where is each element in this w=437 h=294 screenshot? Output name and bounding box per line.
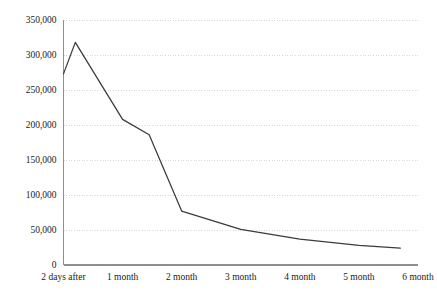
y-tick-label-3: 150,000 [26, 155, 57, 165]
gridlines-group [64, 20, 419, 230]
y-tick-label-1: 50,000 [30, 225, 56, 235]
x-axis-tick-labels: 2 days after1 month2 month3 month4 month… [41, 272, 434, 282]
x-tick-label-0: 2 days after [41, 272, 86, 282]
x-tick-label-5: 5 month [343, 272, 375, 282]
y-tick-label-2: 100,000 [26, 190, 57, 200]
x-tick-label-6: 6 month [402, 272, 434, 282]
y-axis-tick-labels: 050,000100,000150,000200,000250,000300,0… [26, 15, 57, 270]
chart-canvas: 050,000100,000150,000200,000250,000300,0… [0, 0, 437, 294]
y-tick-label-7: 350,000 [26, 15, 57, 25]
y-tick-label-6: 300,000 [26, 50, 57, 60]
x-tick-label-2: 2 month [166, 272, 198, 282]
x-tick-label-1: 1 month [107, 272, 139, 282]
x-tick-label-4: 4 month [284, 272, 316, 282]
line-chart: 050,000100,000150,000200,000250,000300,0… [0, 0, 437, 294]
y-tick-label-4: 200,000 [26, 120, 57, 130]
data-series-line [64, 42, 401, 248]
x-tick-label-3: 3 month [225, 272, 257, 282]
y-tick-label-0: 0 [52, 260, 57, 270]
axes-group [64, 20, 419, 265]
y-tick-label-5: 250,000 [26, 85, 57, 95]
